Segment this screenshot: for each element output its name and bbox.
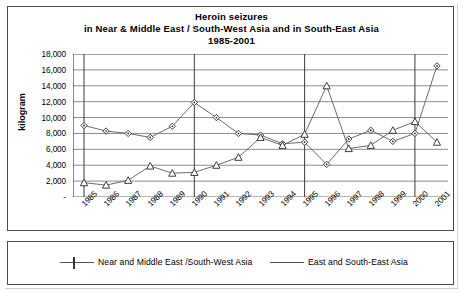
chart-title-line2: in Near & Middle East / South-West Asia …	[8, 23, 455, 35]
chart-panel: Heroin seizures in Near & Middle East / …	[7, 6, 454, 231]
legend-row: Near and Middle East /South-West Asia Ea…	[8, 242, 455, 286]
diamond-marker-icon	[60, 257, 94, 267]
legend-panel: Near and Middle East /South-West Asia Ea…	[7, 241, 454, 285]
data-point-near-middle-east-1991-center	[215, 117, 217, 119]
data-point-near-middle-east-1990-center	[193, 102, 195, 104]
y-tick-label: 16,000	[42, 65, 66, 74]
y-tick-label: 18,000	[42, 50, 66, 59]
data-point-near-middle-east-1996-center	[326, 164, 328, 166]
y-tick-label: 8,000	[46, 129, 66, 138]
data-point-east-south-east-asia-1987	[125, 177, 132, 184]
legend-item-near-middle-east[interactable]: Near and Middle East /South-West Asia	[60, 257, 252, 267]
plot-area	[73, 54, 448, 197]
data-point-near-middle-east-1985-center	[83, 125, 85, 127]
y-tick-label: 14,000	[42, 81, 66, 90]
data-point-east-south-east-asia-1995	[301, 131, 308, 138]
x-axis-tick-labels: 1985198619871988198919901991199219931994…	[73, 200, 451, 240]
data-point-near-middle-east-1988-center	[149, 137, 151, 139]
chart-title-line3: 1985-2001	[8, 35, 455, 47]
y-tick-label: 10,000	[42, 113, 66, 122]
y-tick-label: 6,000	[46, 145, 66, 154]
data-point-near-middle-east-1995-center	[304, 141, 306, 143]
data-point-east-south-east-asia-1985	[80, 179, 87, 186]
plot-svg	[73, 54, 448, 197]
data-point-near-middle-east-1987-center	[127, 133, 129, 135]
data-point-near-middle-east-1992-center	[238, 133, 240, 135]
data-point-near-middle-east-1997-center	[348, 138, 350, 140]
legend-item-east-south-east-asia[interactable]: East and South-East Asia	[270, 257, 408, 267]
data-point-east-south-east-asia-1999	[389, 127, 396, 134]
y-tick-label: 2,000	[46, 177, 66, 186]
chart-title-line1: Heroin seizures	[8, 11, 455, 23]
data-point-east-south-east-asia-2000	[411, 118, 418, 125]
legend-label-near-middle-east: Near and Middle East /South-West Asia	[98, 257, 252, 267]
y-axis-tick-labels: 18,00016,00014,00012,00010,0008,0006,000…	[8, 54, 66, 197]
data-point-near-middle-east-2000-center	[414, 133, 416, 135]
data-point-near-middle-east-2001-center	[436, 65, 438, 67]
y-tick-label: -	[63, 193, 66, 202]
chart-title: Heroin seizures in Near & Middle East / …	[8, 11, 455, 48]
y-tick-label: 12,000	[42, 97, 66, 106]
y-tick-label: 4,000	[46, 161, 66, 170]
data-point-near-middle-east-1998-center	[370, 129, 372, 131]
data-point-near-middle-east-1999-center	[392, 140, 394, 142]
legend-label-east-south-east-asia: East and South-East Asia	[308, 257, 408, 267]
data-point-near-middle-east-1986-center	[105, 130, 107, 132]
data-point-near-middle-east-1989-center	[171, 125, 173, 127]
data-point-east-south-east-asia-1998	[367, 142, 374, 149]
page-edge-line-right	[457, 4, 458, 289]
page-edge-line-bottom	[5, 288, 457, 289]
triangle-marker-icon	[270, 257, 304, 267]
chart-screenshot: Heroin seizures in Near & Middle East / …	[0, 0, 461, 292]
data-point-east-south-east-asia-1988	[147, 162, 154, 169]
